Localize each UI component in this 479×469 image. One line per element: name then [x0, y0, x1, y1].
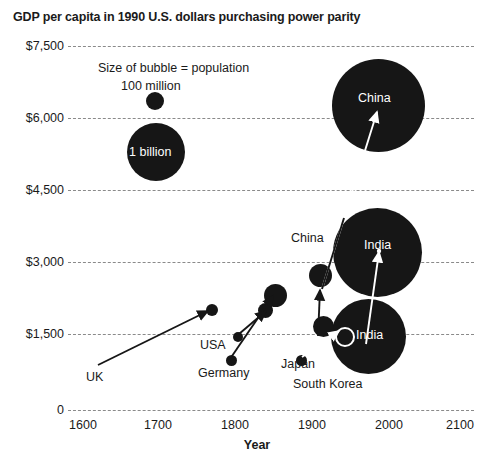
bubble-usa-1870 [258, 303, 273, 318]
connector-uk [98, 311, 208, 365]
chart-title: GDP per capita in 1990 U.S. dollars purc… [13, 10, 360, 24]
label-uk-origin: UK [86, 370, 103, 384]
gridline-7500 [68, 46, 474, 47]
legend-1-billion-label: 1 billion [129, 145, 171, 159]
bubble-japan-1900 [313, 316, 334, 337]
legend-100-million-label: 100 million [121, 79, 181, 93]
gridline-0 [68, 410, 474, 411]
gridline-1500 [68, 334, 474, 335]
bubble-china-2000 [332, 59, 425, 152]
ytick-6000: $6,000 [2, 111, 64, 125]
ytick-1500: $1,500 [2, 327, 64, 341]
bubble-uk-1800 [206, 304, 218, 316]
x-axis-title: Year [0, 438, 479, 452]
label-india-1960: India [356, 328, 383, 342]
ytick-7500: $7,500 [2, 39, 64, 53]
bubble-chart: GDP per capita in 1990 U.S. dollars purc… [0, 0, 479, 469]
ytick-0: 0 [2, 403, 64, 417]
xtick-1700: 1700 [144, 418, 172, 432]
legend-bubble-100-million [146, 92, 164, 110]
label-india-2000: India [364, 238, 391, 252]
marker-usa-start [233, 332, 243, 342]
label-germany: Germany [198, 366, 249, 380]
label-japan: Japan [281, 357, 315, 371]
gridline-4500 [68, 190, 474, 191]
marker-india-start-ring [335, 327, 355, 347]
label-usa: USA [200, 338, 226, 352]
xtick-1900: 1900 [298, 418, 326, 432]
bubble-china-1950 [309, 264, 332, 287]
xtick-1800: 1800 [221, 418, 249, 432]
ytick-4500: $4,500 [2, 183, 64, 197]
label-south-korea: South Korea [293, 377, 363, 391]
bubble-india-2000 [333, 208, 422, 297]
xtick-1600: 1600 [69, 418, 97, 432]
x-axis-title-text: Year [244, 438, 270, 452]
marker-germany-start [226, 355, 237, 366]
label-china-1950: China [291, 231, 324, 245]
legend-size-caption: Size of bubble = population [98, 61, 249, 75]
ytick-3000: $3,000 [2, 255, 64, 269]
xtick-2000: 2000 [375, 418, 403, 432]
xtick-2100: 2100 [446, 418, 474, 432]
label-china-2000: China [358, 91, 391, 105]
